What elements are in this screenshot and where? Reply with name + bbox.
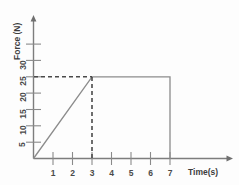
y-tick-label-10-wrap: 10 <box>9 121 23 130</box>
y-axis-title-wrap: Force (N) <box>2 8 16 62</box>
y-tick-label-20-wrap: 20 <box>9 88 23 97</box>
force-time-chart: 1 2 3 4 5 6 7 5 10 15 20 25 30 Force (N)… <box>0 0 239 185</box>
y-tick-label-5-wrap: 5 <box>9 138 23 147</box>
x-tick-label-7: 7 <box>168 169 173 178</box>
chart-canvas <box>0 0 239 185</box>
x-tick-label-5: 5 <box>129 169 134 178</box>
y-tick-label-5: 5 <box>19 142 28 147</box>
y-tick-label-20: 20 <box>19 93 28 102</box>
y-axis-title: Force (N) <box>13 23 22 60</box>
x-tick-label-1: 1 <box>51 169 56 178</box>
x-tick-label-3: 3 <box>90 169 95 178</box>
x-axis-title: Time(s) <box>188 168 218 177</box>
arrow-right-icon <box>227 156 234 162</box>
y-tick-label-15: 15 <box>19 109 28 118</box>
y-tick-label-30: 30 <box>19 60 28 69</box>
y-tick-label-25-wrap: 25 <box>9 72 23 81</box>
arrow-up-icon <box>31 15 37 22</box>
y-tick-label-25: 25 <box>19 76 28 85</box>
y-tick-label-15-wrap: 15 <box>9 105 23 114</box>
x-tick-label-4: 4 <box>109 169 114 178</box>
y-tick-label-10: 10 <box>19 125 28 134</box>
x-tick-label-2: 2 <box>70 169 75 178</box>
force-data-line <box>34 77 171 159</box>
x-tick-label-6: 6 <box>148 169 153 178</box>
